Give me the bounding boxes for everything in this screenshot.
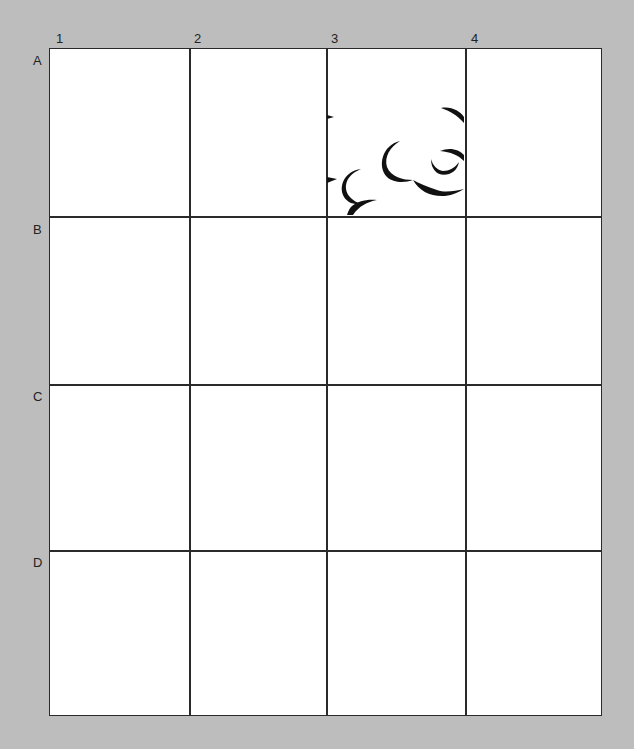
cloud-stroke: [413, 180, 464, 196]
grid-line-vertical: [465, 49, 467, 715]
column-label-2: 2: [194, 31, 201, 46]
grid-line-vertical: [189, 49, 191, 715]
cloud-stroke: [440, 149, 464, 161]
row-label-c: C: [33, 389, 42, 404]
row-label-d: D: [33, 555, 42, 570]
cloud-stroke: [342, 169, 361, 204]
cloud-stroke: [327, 177, 337, 183]
column-label-4: 4: [471, 31, 478, 46]
column-label-3: 3: [331, 31, 338, 46]
grid-line-horizontal: [50, 216, 601, 218]
row-label-a: A: [33, 53, 42, 68]
cloud-stroke: [382, 141, 413, 182]
column-label-1: 1: [56, 31, 63, 46]
cloud-stroke: [327, 115, 334, 119]
grid-line-horizontal: [50, 550, 601, 552]
cloud-stroke: [431, 159, 459, 175]
drawing-grid: [49, 48, 602, 716]
cloud-drawing: [327, 49, 465, 216]
grid-line-horizontal: [50, 384, 601, 386]
row-label-b: B: [33, 222, 42, 237]
cloud-stroke: [441, 108, 464, 123]
cell-a3: [327, 49, 465, 216]
